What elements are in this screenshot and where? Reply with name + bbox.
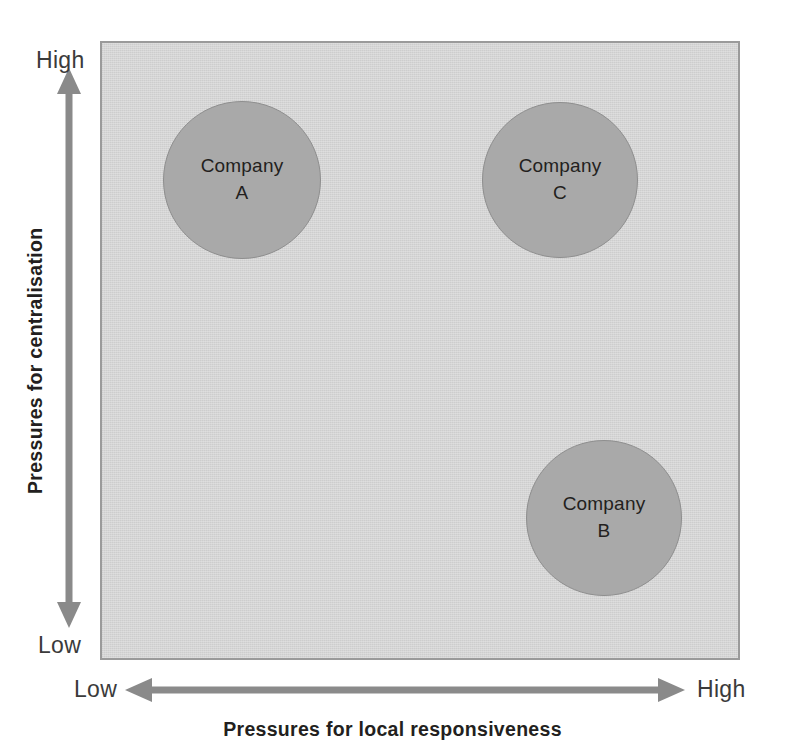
bubble-company-b-code: B <box>598 518 611 545</box>
y-axis-arrow <box>50 68 90 628</box>
matrix-figure: Company A Company C Company B High Low P… <box>0 0 785 756</box>
bubble-company-a[interactable]: Company A <box>163 101 321 259</box>
y-axis-high-label: High <box>36 47 85 74</box>
bubble-company-c[interactable]: Company C <box>482 102 638 258</box>
bubble-company-c-name: Company <box>519 153 602 180</box>
bubble-company-a-code: A <box>236 180 249 207</box>
x-axis-high-label: High <box>697 676 746 703</box>
x-axis-title: Pressures for local responsiveness <box>0 718 785 741</box>
y-axis-low-label: Low <box>38 632 81 659</box>
x-axis-arrow <box>125 675 685 707</box>
bubble-company-b-name: Company <box>563 491 646 518</box>
y-axis-title: Pressures for centralisation <box>24 228 47 494</box>
bubble-company-b[interactable]: Company B <box>526 440 682 596</box>
bubble-company-a-name: Company <box>201 153 284 180</box>
x-axis-low-label: Low <box>74 676 117 703</box>
bubble-company-c-code: C <box>553 180 567 207</box>
